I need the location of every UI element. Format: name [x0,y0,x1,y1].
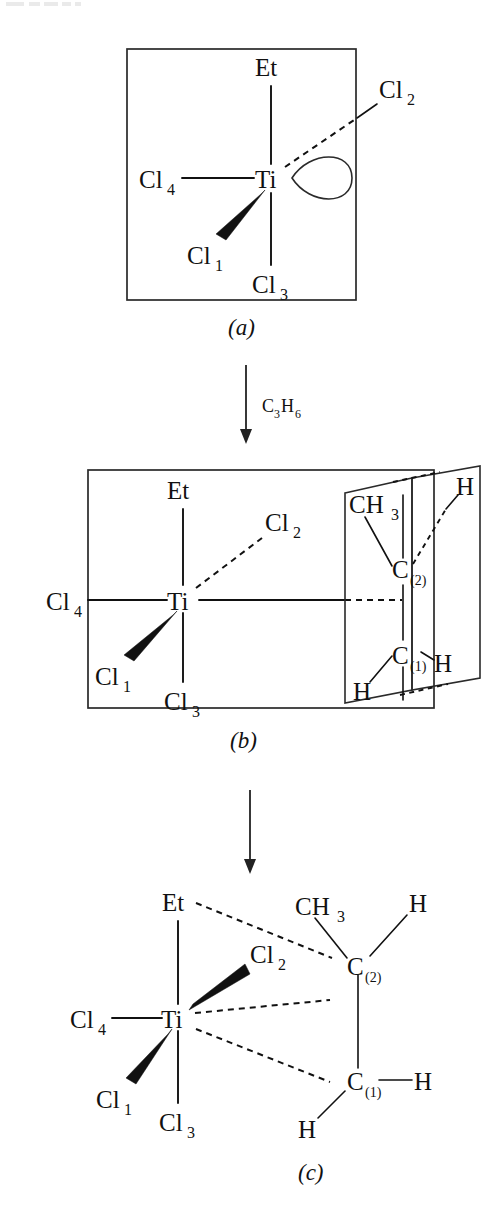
bond-c2-ch3-b [365,517,392,566]
svg-text:3: 3 [274,407,280,421]
bond-c2-h-c [370,915,407,956]
svg-text:Cl: Cl [139,166,163,193]
label-h-lower-left-b: H [353,678,371,705]
reaction-scheme-svg: Et Ti Cl 4 Cl 3 Cl 2 Cl 1 (a) C 3 H 6 [0,0,497,1212]
svg-text:3: 3 [192,703,200,720]
svg-text:Cl: Cl [252,271,276,298]
svg-text:4: 4 [167,181,175,198]
svg-text:(1): (1) [410,659,427,675]
vacant-site-lobe-icon [292,157,352,199]
bond-ti-c2-c [195,1000,330,1013]
label-cl4-c: Cl 4 [70,1006,106,1038]
bond-ti-cl2-a-tail [357,104,377,118]
svg-text:Cl: Cl [46,588,70,615]
bond-c1-h-left-c [318,1091,345,1118]
label-cl2-a: Cl 2 [379,76,415,108]
wedge-ti-cl1-b [124,611,177,661]
wedge-ti-cl1-a [216,190,265,240]
label-h-c2-c: H [409,890,427,917]
panel-c: C(2) agostic/forming bond (dashed) --> C… [70,889,432,1185]
svg-text:2: 2 [278,956,286,973]
label-cl4-b: Cl 4 [46,588,82,620]
svg-text:Cl: Cl [70,1006,94,1033]
svg-text:(2): (2) [410,573,427,589]
wedge-ti-cl2-c [189,964,250,1010]
label-h-upper-b: H [456,473,474,500]
label-cl2-c: Cl 2 [250,941,286,973]
svg-text:Cl: Cl [96,1086,120,1113]
svg-text:CH: CH [349,491,384,518]
label-c2-b: C (2) [392,556,427,589]
svg-text:4: 4 [74,603,82,620]
label-h-c1-right-c: H [414,1068,432,1095]
label-c2-c: C (2) [347,953,382,986]
svg-text:C: C [262,396,274,416]
panel-b: Et Ti Cl 4 Cl 3 Cl 2 Cl 1 CH 3 C (2) C (… [46,466,480,753]
svg-text:Cl: Cl [95,663,119,690]
svg-text:CH: CH [295,893,330,920]
label-cl4-a: Cl 4 [139,166,175,198]
svg-text:Cl: Cl [159,1109,183,1136]
svg-text:Cl: Cl [250,941,274,968]
svg-text:3: 3 [187,1124,195,1141]
svg-text:1: 1 [215,257,223,274]
label-ch3-c: CH 3 [295,893,345,925]
label-cl1-b: Cl 1 [95,663,131,695]
label-cl2-b: Cl 2 [265,509,301,541]
scan-artifact [6,2,81,6]
svg-text:(2): (2) [365,970,382,986]
svg-text:C: C [392,556,409,583]
svg-text:C: C [392,642,409,669]
bond-ti-c1-c [196,1029,330,1082]
svg-text:Cl: Cl [164,688,188,715]
svg-text:Cl: Cl [379,76,403,103]
svg-text:3: 3 [280,286,288,303]
svg-text:Cl: Cl [187,242,211,269]
label-h-c1-left-c: H [298,1116,316,1143]
svg-text:1: 1 [123,678,131,695]
svg-text:2: 2 [407,91,415,108]
svg-text:(1): (1) [365,1085,382,1101]
bond-c2-h-b [413,509,446,564]
arrow-a-to-b: C 3 H 6 [240,365,301,444]
label-ti-c: Ti [161,1006,182,1033]
svg-text:C: C [347,1068,364,1095]
reagent-label-c3h6: C 3 H 6 [262,396,301,421]
arrow-b-to-c [244,790,256,874]
svg-text:H: H [281,396,294,416]
hinge-bottom-b [400,684,448,695]
svg-text:3: 3 [391,506,399,523]
label-cl1-c: Cl 1 [96,1086,132,1118]
svg-text:1: 1 [124,1101,132,1118]
svg-text:4: 4 [98,1021,106,1038]
svg-text:6: 6 [295,407,301,421]
panel-b-caption: (b) [230,728,257,753]
label-cl3-b: Cl 3 [164,688,200,720]
label-cl1-a: Cl 1 [187,242,223,274]
label-cl3-a: Cl 3 [252,271,288,303]
label-h-lower-right-b: H [434,650,452,677]
label-ti-a: Ti [255,166,276,193]
svg-text:2: 2 [293,524,301,541]
label-et-c: Et [162,889,184,916]
svg-text:3: 3 [337,908,345,925]
label-et-a: Et [255,54,277,81]
panel-a: Et Ti Cl 4 Cl 3 Cl 2 Cl 1 (a) [127,49,415,340]
bond-c1-h-lower-left-b [370,656,392,682]
bond-ti-cl2-b [196,538,262,588]
bond-ti-cl2-a [285,118,357,167]
label-et-b: Et [167,477,189,504]
figure-canvas: Et Ti Cl 4 Cl 3 Cl 2 Cl 1 (a) C 3 H 6 [0,0,497,1212]
label-cl3-c: Cl 3 [159,1109,195,1141]
label-c1-c: C (1) [347,1068,382,1101]
wedge-ti-cl1-c [126,1029,172,1084]
svg-text:C: C [347,953,364,980]
svg-text:Cl: Cl [265,509,289,536]
panel-c-caption: (c) [298,1160,324,1185]
label-ti-b: Ti [167,588,188,615]
label-c1-b: C (1) [392,642,427,675]
panel-a-caption: (a) [228,315,255,340]
label-ch3-b: CH 3 [349,491,399,523]
